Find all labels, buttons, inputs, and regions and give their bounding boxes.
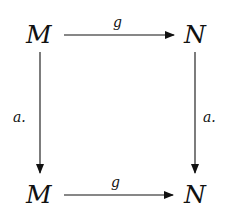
label-top-arrow: g [113,15,122,29]
label-right-arrow: a. [203,110,216,124]
node-top-left: M [26,22,52,47]
label-bottom-arrow: g [111,175,120,189]
node-bottom-left: M [26,182,52,207]
label-left-arrow: a. [13,110,26,124]
commutative-diagram: M N M N g g a. a. [0,0,230,212]
node-top-right: N [184,22,206,47]
node-bottom-right: N [184,182,206,207]
